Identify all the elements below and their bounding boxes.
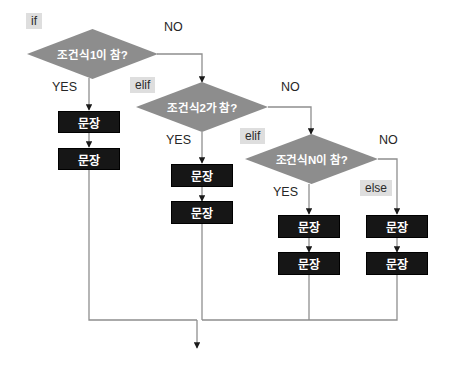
keyword-tag-elif-2: elif (240, 128, 265, 144)
edge-label-no-2: NO (281, 80, 300, 94)
process-label-else-2: 문장 (386, 255, 409, 272)
process-label-if-1: 문장 (78, 114, 101, 131)
flowchart-diagram: if elif elif else 조건식1이 참? 조건식2가 참? 조건식N… (0, 0, 449, 375)
edge-label-yes-1: YES (52, 80, 77, 94)
process-label-elif1-1: 문장 (191, 167, 214, 184)
process-node-else-1: 문장 (366, 215, 428, 238)
process-node-elif1-2: 문장 (171, 201, 233, 224)
decision-label-1: 조건식1이 참? (57, 46, 127, 62)
keyword-tag-elif-1: elif (130, 77, 155, 93)
process-node-elif1-1: 문장 (171, 164, 233, 187)
process-node-if-1: 문장 (58, 111, 120, 133)
edge-label-no-1: NO (164, 20, 183, 34)
edge-d2-no (268, 107, 311, 134)
decision-label-2: 조건식2가 참? (167, 99, 237, 115)
edge-label-no-3: NO (379, 133, 398, 147)
edge-else-to-merge (202, 275, 397, 320)
process-node-if-2: 문장 (58, 148, 120, 170)
decision-label-3: 조건식N이 참? (276, 151, 348, 167)
process-node-elifn-1: 문장 (278, 215, 340, 238)
edge-if-to-merge (89, 170, 197, 320)
keyword-tag-if: if (26, 13, 42, 29)
process-node-elifn-2: 문장 (278, 252, 340, 275)
edge-label-yes-2: YES (166, 133, 191, 147)
edge-label-yes-3: YES (273, 185, 298, 199)
process-label-elif1-2: 문장 (191, 204, 214, 221)
process-label-elifn-2: 문장 (298, 255, 321, 272)
process-label-else-1: 문장 (386, 218, 409, 235)
process-label-elifn-1: 문장 (298, 218, 321, 235)
edge-d1-no (157, 54, 202, 82)
process-node-else-2: 문장 (366, 252, 428, 275)
process-label-if-2: 문장 (78, 151, 101, 168)
keyword-tag-else: else (360, 180, 392, 196)
